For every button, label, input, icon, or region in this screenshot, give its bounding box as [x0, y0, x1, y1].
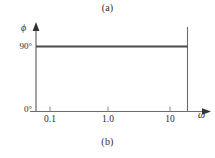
y-axis-arrowhead: [33, 22, 40, 31]
x-tick-label-0.1: 0.1: [35, 114, 65, 124]
y-tick-label-90: 90°: [8, 41, 32, 51]
y-axis-label: ϕ: [21, 22, 26, 33]
figure-caption-top: (a): [0, 2, 215, 13]
x-axis-ticks: [50, 107, 170, 112]
x-tick-label-10: 10: [155, 114, 185, 124]
figure-caption-bottom: (b): [0, 136, 215, 147]
y-axis: [33, 22, 40, 112]
x-tick-label-1.0: 1.0: [93, 114, 123, 124]
x-axis-label: ω: [198, 109, 205, 120]
phase-plot: ϕ ω 90° 0° 0.1 1.0 10: [0, 18, 215, 134]
y-tick-label-0: 0°: [8, 104, 32, 114]
